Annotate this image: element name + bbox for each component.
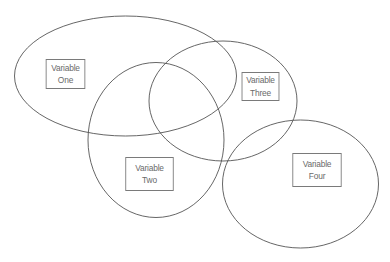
label-line: Four — [309, 170, 325, 183]
label-line: Variable — [135, 162, 164, 175]
label-line: One — [58, 74, 73, 87]
venn-diagram — [0, 0, 390, 262]
label-line: Three — [250, 87, 271, 100]
ellipse-variable-two — [88, 63, 224, 218]
label-line: Variable — [246, 74, 275, 87]
label-line: Variable — [51, 62, 80, 75]
label-variable-four: Variable Four — [292, 153, 341, 187]
label-variable-three: Variable Three — [242, 72, 280, 101]
label-variable-two: Variable Two — [125, 157, 173, 191]
label-variable-one: Variable One — [46, 59, 86, 89]
ellipse-variable-three — [149, 41, 297, 161]
label-line: Variable — [303, 158, 332, 171]
label-line: Two — [142, 174, 157, 187]
